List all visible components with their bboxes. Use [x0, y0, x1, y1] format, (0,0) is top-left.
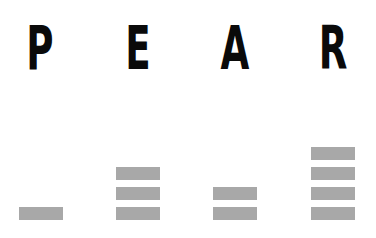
bar-block	[116, 187, 160, 200]
bar-column-p	[19, 207, 63, 220]
category-label-r: R	[314, 18, 351, 78]
bar-block	[311, 147, 355, 160]
bar-column-r	[311, 147, 355, 220]
bar-block	[213, 187, 257, 200]
bar-block	[213, 207, 257, 220]
bar-block	[311, 187, 355, 200]
bar-block	[116, 207, 160, 220]
bar-block	[19, 207, 63, 220]
category-label-p: P	[21, 18, 58, 78]
bar-block	[311, 167, 355, 180]
bar-block	[311, 207, 355, 220]
bar-column-a	[213, 187, 257, 220]
category-label-e: E	[119, 18, 156, 78]
bar-block	[116, 167, 160, 180]
bar-column-e	[116, 167, 160, 220]
category-label-a: A	[216, 18, 253, 78]
